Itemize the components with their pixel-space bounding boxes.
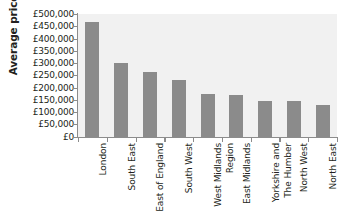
bar <box>316 105 330 137</box>
bar-chart: Average price £500,000£450,000£400,000£3… <box>0 0 345 224</box>
y-axis-tick-mark <box>73 75 78 76</box>
y-axis-tick-label: £250,000 <box>22 70 74 80</box>
y-axis-tick-label: £50,000 <box>22 119 74 129</box>
x-axis-tick-mark <box>251 138 252 143</box>
bar <box>258 101 272 137</box>
y-axis-tick-mark <box>73 39 78 40</box>
bar <box>143 72 157 137</box>
x-axis-category-label: Yorkshire and The Humber <box>271 143 297 223</box>
x-axis-tick-mark <box>222 138 223 143</box>
y-axis-tick-label: £450,000 <box>22 21 74 31</box>
x-axis-category-label: East Midlands <box>242 143 268 223</box>
y-axis-tick-mark <box>73 63 78 64</box>
y-axis-tick-mark <box>73 112 78 113</box>
x-axis-tick-mark <box>107 138 108 143</box>
bar <box>85 22 99 136</box>
y-axis-tick-mark <box>73 51 78 52</box>
y-axis-tick-mark <box>73 26 78 27</box>
y-axis-tick-mark <box>73 124 78 125</box>
bar <box>172 80 186 137</box>
bar <box>229 95 243 137</box>
y-axis-title: Average price <box>7 0 21 83</box>
y-axis-tick-label: £150,000 <box>22 95 74 105</box>
y-axis-tick-labels: £500,000£450,000£400,000£350,000£300,000… <box>22 9 74 141</box>
x-axis-tick-mark <box>308 138 309 143</box>
x-axis-category-label: West Midlands Region <box>213 143 239 223</box>
y-axis-tick-label: £500,000 <box>22 9 74 19</box>
x-axis-category-label: London <box>98 143 124 223</box>
bar <box>201 94 215 137</box>
y-axis-tick-mark <box>73 14 78 15</box>
bar <box>114 63 128 137</box>
x-axis-tick-mark <box>78 138 79 143</box>
y-axis-tick-label: £100,000 <box>22 107 74 117</box>
y-axis-tick-mark <box>73 137 78 138</box>
x-axis-category-label: South East <box>127 143 153 223</box>
bars-layer <box>78 14 337 137</box>
x-axis-tick-mark <box>279 138 280 143</box>
x-axis-category-label: East of England <box>155 143 181 223</box>
x-axis-tick-mark <box>136 138 137 143</box>
y-axis-tick-label: £350,000 <box>22 46 74 56</box>
x-axis-category-labels: LondonSouth EastEast of EnglandSouth Wes… <box>78 143 337 224</box>
y-axis-tick-label: £300,000 <box>22 58 74 68</box>
bar <box>287 101 301 137</box>
x-axis-category-label: North West <box>299 143 325 223</box>
y-axis-tick-mark <box>73 100 78 101</box>
y-axis-tick-label: £200,000 <box>22 83 74 93</box>
x-axis-category-label: North East <box>328 143 345 223</box>
y-axis-tick-label: £400,000 <box>22 34 74 44</box>
x-axis-tick-mark <box>193 138 194 143</box>
x-axis-line <box>77 137 338 138</box>
y-axis-tick-label: £0 <box>22 132 74 142</box>
x-axis-category-label: South West <box>184 143 210 223</box>
x-axis-tick-mark <box>164 138 165 143</box>
y-axis-tick-mark <box>73 88 78 89</box>
x-axis-tick-mark <box>337 138 338 143</box>
